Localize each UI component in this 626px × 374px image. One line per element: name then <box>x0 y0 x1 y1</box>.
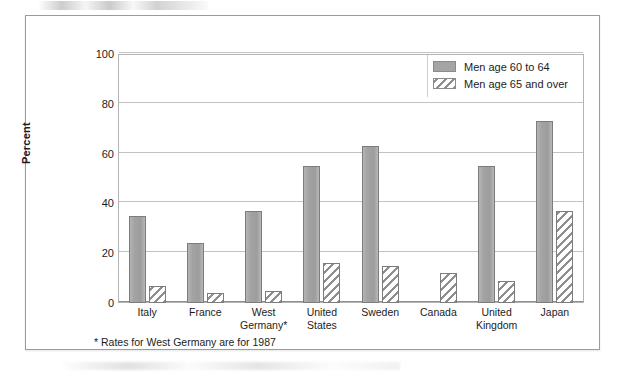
figure-frame: Percent 020406080100 ItalyFranceWestGerm… <box>25 15 600 350</box>
x-category-line: Japan <box>526 306 584 319</box>
gridline-60 <box>119 152 583 153</box>
x-category-line: States <box>293 319 351 332</box>
x-category-line: France <box>176 306 234 319</box>
x-category-line: West <box>235 306 293 319</box>
y-tick-label-60: 60 <box>80 148 114 160</box>
x-category-line: Canada <box>409 306 467 319</box>
legend-label: Men age 65 and over <box>464 78 568 90</box>
gridline-20 <box>119 251 583 252</box>
y-tick-label-80: 80 <box>80 98 114 110</box>
x-category-label: UnitedStates <box>293 306 351 332</box>
x-axis-baseline <box>119 301 583 302</box>
gridline-80 <box>119 102 583 103</box>
x-category-line: Sweden <box>351 306 409 319</box>
y-tick-label-100: 100 <box>80 48 114 60</box>
scan-artifact-bottom <box>60 362 400 370</box>
y-axis-tick-labels: 020406080100 <box>74 54 114 303</box>
legend-item: Men age 65 and over <box>433 76 568 91</box>
y-axis-title: Percent <box>20 122 32 164</box>
y-tick-label-0: 0 <box>80 297 114 309</box>
diagonal-hatch-swatch <box>433 78 456 89</box>
x-category-label: UnitedKingdom <box>468 306 526 332</box>
x-category-label: WestGermany* <box>235 306 293 332</box>
x-category-line: Italy <box>118 306 176 319</box>
footnote: * Rates for West Germany are for 1987 <box>94 336 276 348</box>
x-category-line: Kingdom <box>468 319 526 332</box>
gridline-100 <box>119 52 583 53</box>
chart-legend: Men age 60 to 64Men age 65 and over <box>427 55 574 97</box>
gridline-40 <box>119 201 583 202</box>
y-tick-label-40: 40 <box>80 197 114 209</box>
x-category-line: United <box>468 306 526 319</box>
scan-artifact-top <box>38 1 208 10</box>
legend-label: Men age 60 to 64 <box>464 61 550 73</box>
x-category-label: Japan <box>526 306 584 319</box>
solid-gray-swatch <box>433 61 456 72</box>
x-category-label: Italy <box>118 306 176 319</box>
x-category-label: Sweden <box>351 306 409 319</box>
x-category-label: France <box>176 306 234 319</box>
x-category-line: United <box>293 306 351 319</box>
x-category-line: Germany* <box>235 319 293 332</box>
y-tick-label-20: 20 <box>80 247 114 259</box>
legend-item: Men age 60 to 64 <box>433 59 568 74</box>
x-category-label: Canada <box>409 306 467 319</box>
